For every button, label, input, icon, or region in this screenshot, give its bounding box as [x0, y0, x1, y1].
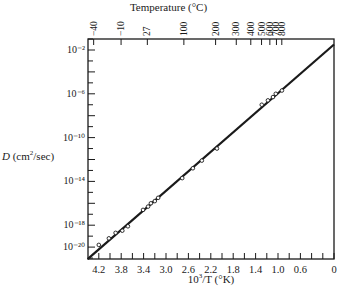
y-title-end: /sec) [33, 150, 54, 162]
data-point [121, 229, 125, 233]
top-axis-title: Temperature (°C) [0, 1, 337, 13]
data-point [271, 95, 275, 99]
y-tick-label: 10⁻¹⁸ [64, 219, 86, 230]
fit-line [88, 45, 334, 260]
data-point [260, 103, 264, 107]
data-point [274, 92, 278, 96]
top-tick-label: −10 [116, 21, 126, 36]
y-tick-label: 10⁻²⁰ [63, 241, 85, 252]
data-point [191, 166, 195, 170]
y-tick-label: 10⁻² [67, 44, 85, 55]
arrhenius-plot: 4.23.83.43.02.62.21.81.41.00.60 10⁻²10⁻⁶… [0, 0, 337, 292]
y-axis-ticks: 10⁻²10⁻⁶10⁻¹⁰10⁻¹⁴10⁻¹⁸10⁻²⁰ [63, 39, 95, 258]
data-point [200, 159, 204, 163]
x-title-base: 10 [188, 273, 199, 285]
data-point [266, 99, 270, 103]
y-tick-label: 10⁻¹⁰ [63, 132, 85, 143]
top-tick-label: 300 [231, 22, 241, 37]
y-tick-label: 10⁻⁶ [67, 88, 86, 99]
top-tick-label: 27 [142, 26, 152, 36]
data-point [280, 89, 284, 93]
data-point [149, 202, 153, 206]
top-tick-label: 400 [246, 22, 256, 37]
y-tick-label: 10⁻¹⁴ [64, 175, 86, 186]
data-point [153, 199, 157, 203]
top-axis-ticks: −40−1027100200300400500600800700 [89, 21, 287, 45]
data-point [126, 224, 130, 228]
top-tick-label: 100 [179, 22, 189, 37]
data-point [97, 243, 101, 247]
top-tick-label: −40 [89, 21, 99, 36]
data-point [141, 208, 145, 212]
data-point [215, 147, 219, 151]
data-point [156, 196, 160, 200]
top-tick-label: 700 [271, 22, 281, 37]
y-title-symbol: D [2, 150, 10, 162]
data-point [146, 205, 150, 209]
data-point [107, 237, 111, 241]
x-axis-title: 103/T (°K) [88, 272, 334, 285]
y-title-unit: (cm [10, 150, 30, 162]
y-axis-title: D (cm2/sec) [2, 149, 54, 162]
top-tick-label: 200 [211, 22, 221, 37]
x-title-suffix: /T (°K) [202, 273, 234, 285]
data-point [114, 231, 118, 235]
data-point [180, 176, 184, 180]
